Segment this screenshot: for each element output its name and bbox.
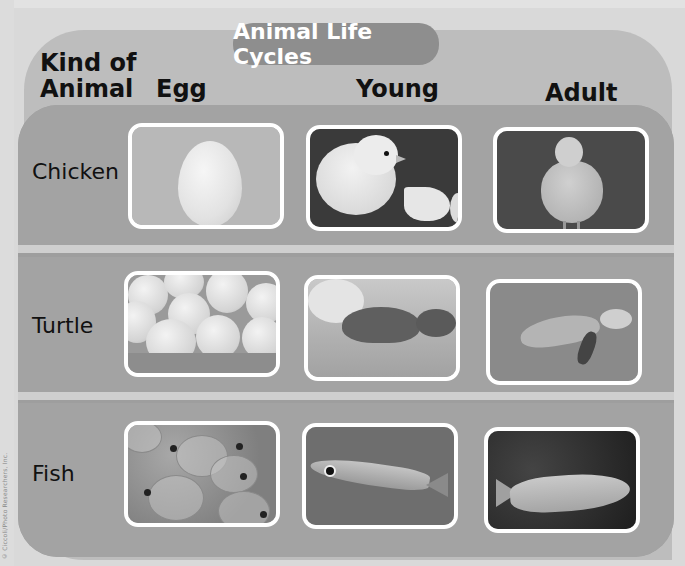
eggshell-icon (404, 187, 450, 221)
turtle-adult-photo (486, 279, 642, 385)
turtle-egg-photo (124, 271, 280, 377)
egg-icon (178, 141, 242, 227)
chicken-adult-photo (493, 127, 649, 233)
life-cycle-table: Chicken Turtle (18, 105, 674, 557)
hatchling-turtle-icon (342, 307, 420, 343)
fish-young-photo (302, 423, 458, 529)
column-header-egg: Egg (156, 76, 207, 102)
column-header-kind-line2: Animal (40, 76, 136, 102)
hen-icon (541, 161, 603, 223)
row-divider (18, 245, 674, 253)
column-header-adult: Adult (545, 80, 618, 106)
table-row-fish: Fish (18, 403, 674, 557)
page-title: Animal Life Cycles (233, 23, 439, 65)
page-top-band (0, 0, 685, 8)
animal-label: Chicken (32, 159, 142, 184)
photo-credit: © Ciccoli/Photo Researchers, Inc. (1, 20, 13, 560)
table-row-chicken: Chicken (18, 105, 674, 245)
table-row-turtle: Turtle (18, 257, 674, 397)
column-header-kind-line1: Kind of (40, 50, 136, 76)
chicken-egg-photo (128, 123, 284, 229)
fish-adult-photo (484, 427, 640, 533)
column-header-young: Young (356, 76, 439, 102)
column-header-kind: Kind of Animal (40, 50, 136, 102)
credit-strip: © Ciccoli/Photo Researchers, Inc. (0, 0, 14, 566)
chicken-young-photo (306, 125, 462, 231)
page-title-text: Animal Life Cycles (233, 19, 439, 69)
chick-head-icon (354, 135, 398, 175)
turtle-young-photo (304, 275, 460, 381)
fish-egg-photo (124, 421, 280, 527)
row-divider (18, 392, 674, 400)
